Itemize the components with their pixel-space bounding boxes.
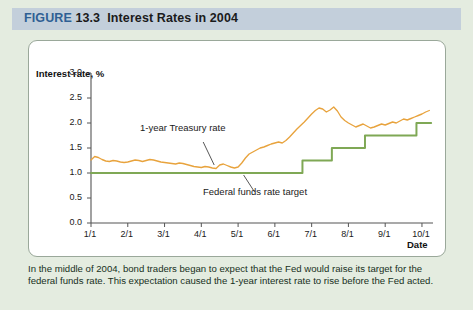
x-tick-label: 10/1 [408, 229, 434, 239]
y-tick-label: 2.0 [62, 117, 82, 127]
y-tick-label: 1.5 [62, 142, 82, 152]
figure-caption: In the middle of 2004, bond traders bega… [28, 263, 452, 288]
annotation-fedfunds-text: Federal funds rate target [203, 186, 307, 197]
annotation-fed-funds-target: Federal funds rate target [203, 186, 307, 197]
x-tick-label: 2/1 [114, 229, 140, 239]
annotation-treasury-rate: 1-year Treasury rate [140, 122, 226, 133]
figure-number: 13.3 [75, 11, 107, 25]
figure-container: FIGURE 13.3 Interest Rates in 2004 Inter… [0, 0, 473, 310]
y-tick-label: 2.5 [62, 92, 82, 102]
annotation-treasury-text: 1-year Treasury rate [140, 122, 226, 133]
treasury-leader-line [203, 142, 214, 165]
figure-word: FIGURE [24, 11, 75, 25]
x-tick-label: 5/1 [224, 229, 250, 239]
x-tick-label: 9/1 [371, 229, 397, 239]
page-title: FIGURE 13.3 Interest Rates in 2004 [24, 11, 238, 25]
y-tick-label: 0.0 [62, 217, 82, 227]
x-tick-label: 8/1 [334, 229, 360, 239]
x-tick-label: 3/1 [151, 229, 177, 239]
series-group [91, 107, 431, 173]
x-tick-label: 7/1 [298, 229, 324, 239]
x-axis-title: Date [407, 239, 428, 250]
series-line-treasury [91, 107, 429, 169]
x-tick-label: 4/1 [187, 229, 213, 239]
figure-title-text: Interest Rates in 2004 [107, 11, 238, 25]
x-axis-title-text: Date [407, 239, 428, 250]
y-tick-label: 3.0 [62, 67, 82, 77]
y-tick-label: 0.5 [62, 192, 82, 202]
x-tick-label: 6/1 [261, 229, 287, 239]
axis-group [87, 73, 433, 227]
x-tick-label: 1/1 [77, 229, 103, 239]
y-tick-label: 1.0 [62, 167, 82, 177]
